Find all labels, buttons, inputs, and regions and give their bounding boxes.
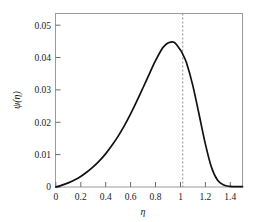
plot-frame <box>56 14 243 188</box>
y-axis-tick-labels: 0 0.01 0.02 0.03 0.04 0.05 <box>34 21 51 193</box>
psi-curve <box>56 42 243 187</box>
y-tick-label: 0.04 <box>34 53 51 63</box>
x-tick-label: 0.6 <box>125 192 137 202</box>
x-tick-label: 0.4 <box>100 192 112 202</box>
figure-container: 0 0.01 0.02 0.03 0.04 0.05 0 0.2 0.4 0.6… <box>0 0 256 222</box>
y-tick-label: 0.03 <box>34 85 51 95</box>
x-tick-label: 1.2 <box>199 192 211 202</box>
x-tick-label: 0 <box>53 192 58 202</box>
x-axis-title: η <box>141 206 146 217</box>
y-tick-label: 0.05 <box>34 21 51 31</box>
x-axis-tick-labels: 0 0.2 0.4 0.6 0.8 1 1.2 1.4 <box>53 192 236 202</box>
x-tick-label: 0.8 <box>150 192 162 202</box>
x-tick-label: 0.2 <box>75 192 87 202</box>
x-tick-label: 1.4 <box>224 192 236 202</box>
chart-canvas: 0 0.01 0.02 0.03 0.04 0.05 0 0.2 0.4 0.6… <box>0 0 256 222</box>
x-axis-ticks <box>56 182 231 187</box>
y-axis-ticks <box>56 25 61 187</box>
x-tick-label: 1 <box>178 192 183 202</box>
y-tick-label: 0.01 <box>34 150 51 160</box>
y-axis-title: ψ(η) <box>11 90 23 109</box>
y-tick-label: 0 <box>46 182 51 192</box>
y-tick-label: 0.02 <box>34 118 51 128</box>
